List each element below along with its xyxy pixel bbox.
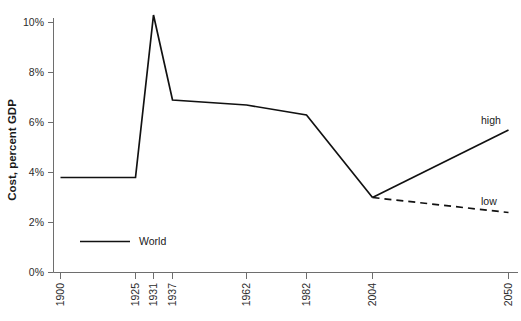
y-axis-ticks: 10% 8% 6% 4% 2% 0%: [23, 16, 54, 278]
y-tick-label-4: 4%: [29, 166, 44, 178]
x-tick-label-1937: 1937: [166, 283, 178, 307]
y-axis-title: Cost, percent GDP: [6, 99, 18, 201]
series-world-line: [61, 15, 373, 198]
high-series-label: high: [481, 114, 501, 126]
legend-label-world: World: [139, 235, 166, 247]
x-tick-label-2050: 2050: [502, 283, 514, 307]
x-tick-label-1931: 1931: [147, 283, 159, 307]
x-tick-label-1900: 1900: [54, 283, 66, 307]
legend: World: [80, 235, 166, 247]
series-high-line: [373, 130, 509, 198]
line-chart: Cost, percent GDP 10% 8% 6% 4% 2% 0% 190…: [0, 0, 521, 321]
y-tick-label-2: 2%: [29, 216, 44, 228]
chart-container: Cost, percent GDP 10% 8% 6% 4% 2% 0% 190…: [0, 0, 521, 321]
y-tick-label-8: 8%: [29, 66, 44, 78]
y-tick-label-6: 6%: [29, 116, 44, 128]
x-tick-label-1962: 1962: [240, 283, 252, 307]
x-tick-label-2004: 2004: [366, 283, 378, 307]
x-tick-label-1982: 1982: [300, 283, 312, 307]
low-series-label: low: [481, 195, 497, 207]
x-axis-ticks: 1900 1925 1931 1937 1962 1982 2004 2050: [54, 273, 514, 307]
x-tick-label-1925: 1925: [129, 283, 141, 307]
y-tick-label-0: 0%: [29, 266, 44, 278]
y-tick-label-10: 10%: [23, 16, 44, 28]
